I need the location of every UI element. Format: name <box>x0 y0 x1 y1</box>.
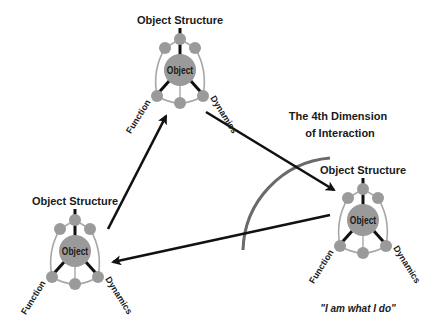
object-label: Object <box>167 65 193 76</box>
diagram-title-line1: The 4th Dimension <box>289 110 388 122</box>
diagram-canvas: Object Object Structure Function Dynamic… <box>0 0 435 327</box>
object-label: Object <box>62 246 88 257</box>
arrow-right-to-left <box>113 215 330 262</box>
object-node-top: Object Object Structure Function Dynamic… <box>124 14 239 135</box>
object-structure-label: Object Structure <box>320 164 406 176</box>
function-label: Function <box>124 98 153 136</box>
quote-text: "I am what I do" <box>320 303 396 314</box>
function-label: Function <box>307 248 336 286</box>
function-label: Function <box>19 279 48 317</box>
arrow-left-to-top <box>108 116 166 229</box>
arrows <box>108 112 334 262</box>
diagram-svg: Object Object Structure Function Dynamic… <box>0 0 435 327</box>
diagram-title-line2: of Interaction <box>305 127 375 139</box>
dynamics-label: Dynamics <box>103 275 134 316</box>
object-structure-label: Object Structure <box>32 195 118 207</box>
object-label: Object <box>350 215 376 226</box>
object-structure-label: Object Structure <box>137 14 223 26</box>
interaction-arc <box>243 158 330 250</box>
object-node-right: Object Object Structure Function Dynamic… <box>307 164 422 285</box>
dynamics-label: Dynamics <box>391 244 422 285</box>
dynamics-label: Dynamics <box>208 94 239 135</box>
